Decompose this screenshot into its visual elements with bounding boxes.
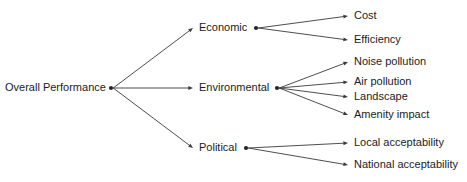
edge-economic-to-cost-line	[258, 16, 345, 28]
tree-diagram-canvas: Overall PerformanceEconomicCostEfficienc…	[0, 0, 467, 182]
edge-political-to-local-acceptability-arrowhead	[343, 141, 348, 145]
edge-political-to-local-acceptability-line	[248, 143, 345, 148]
edge-political-to-national-acceptability-arrowhead	[343, 162, 348, 166]
edge-environmental-to-landscape-arrowhead	[343, 95, 348, 99]
node-label-root: Overall Performance	[5, 81, 106, 93]
edge-economic-to-cost-arrowhead	[343, 15, 348, 19]
edge-environmental-to-noise-pollution-line	[279, 63, 345, 88]
node-label-local-acceptability: Local acceptability	[354, 136, 444, 148]
node-dot-economic	[254, 26, 258, 30]
node-label-political: Political	[199, 141, 237, 153]
node-label-national-acceptability: National acceptability	[354, 158, 458, 170]
edge-economic-to-efficiency-arrowhead	[343, 38, 348, 42]
node-label-efficiency: Efficiency	[354, 33, 401, 45]
node-label-noise-pollution: Noise pollution	[354, 55, 426, 67]
node-labels-layer: Overall PerformanceEconomicCostEfficienc…	[5, 9, 458, 170]
node-label-environmental: Environmental	[199, 81, 269, 93]
node-label-amenity-impact: Amenity impact	[354, 108, 429, 120]
edge-root-to-environmental-arrowhead	[188, 86, 193, 90]
node-label-landscape: Landscape	[354, 90, 408, 102]
edge-environmental-to-air-pollution-arrowhead	[343, 81, 348, 85]
node-label-economic: Economic	[199, 21, 248, 33]
node-label-air-pollution: Air pollution	[354, 75, 411, 87]
edge-root-to-economic-line	[113, 30, 190, 88]
node-dot-root	[109, 86, 113, 90]
node-dot-environmental	[275, 86, 279, 90]
edge-root-to-political-line	[113, 88, 190, 146]
tree-diagram: Overall PerformanceEconomicCostEfficienc…	[0, 0, 467, 182]
edge-political-to-national-acceptability-line	[248, 148, 345, 164]
edge-environmental-to-amenity-impact-arrowhead	[343, 112, 348, 116]
edge-economic-to-efficiency-line	[258, 28, 345, 40]
node-dot-political	[244, 146, 248, 150]
edge-environmental-to-noise-pollution-arrowhead	[343, 62, 348, 66]
node-label-cost: Cost	[354, 9, 377, 21]
edge-environmental-to-air-pollution-line	[279, 82, 345, 88]
